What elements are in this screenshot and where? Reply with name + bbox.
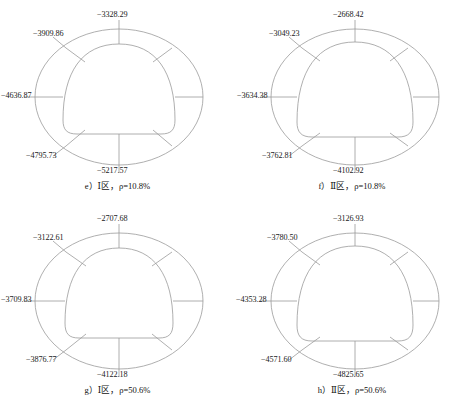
inner-tunnel-profile-h [297,246,413,341]
label-h-invert: −4825.65 [333,371,363,379]
divider-f-lower-right [390,133,408,146]
panel-h: −3126.93 −3780.50 −4353.28 −4571.60 −482… [235,205,469,410]
leader-f-upper-left [289,37,302,48]
divider-h-upper-right [390,252,408,265]
label-h-left: −4353.28 [236,296,266,304]
panel-e: −3328.29 −3909.86 −4636.87 −4795.73 −521… [0,0,235,205]
label-e-crown: −3328.29 [97,11,127,19]
label-f-invert: −4102.92 [333,167,363,175]
label-e-invert: −5217.57 [97,167,127,175]
divider-f-upper-right [390,48,408,61]
caption-g: g）Ⅰ区，ρ=50.6% [0,386,235,395]
inner-tunnel-profile-g [65,248,173,338]
leader-h-upper-left [289,241,302,252]
label-e-left: −4636.87 [1,92,31,100]
panel-g: −2707.68 −3122.61 −3709.83 −3876.77 −412… [0,205,235,410]
divider-g-upper-right [152,252,172,266]
caption-e: e）Ⅰ区，ρ=10.8% [0,182,235,191]
label-g-upper-left: −3122.61 [33,234,63,242]
divider-g-lower-right [152,334,172,350]
caption-f: f）Ⅱ区，ρ=10.8% [235,182,469,191]
divider-f-lower-left [302,133,320,146]
divider-h-lower-right [390,337,408,350]
label-h-crown: −3126.93 [333,215,363,223]
leader-g-upper-left [53,241,66,252]
label-f-upper-left: −3049.23 [269,30,299,38]
label-f-lower-left: −3762.81 [262,152,292,160]
label-e-lower-left: −4795.73 [26,152,56,160]
panel-f: −2668.42 −3049.23 −3634.38 −3762.81 −410… [235,0,469,205]
label-h-lower-left: −4571.60 [261,356,291,364]
divider-g-upper-left [66,252,86,266]
caption-h: h）Ⅱ区，ρ=50.6% [235,386,469,395]
label-h-upper-left: −3780.50 [267,234,297,242]
divider-f-upper-left [302,48,320,61]
label-g-left: −3709.83 [1,296,31,304]
divider-g-lower-left [66,334,86,350]
leader-e-upper-left [53,37,66,48]
inner-tunnel-profile-f [297,42,413,137]
label-g-invert: −4122.18 [97,371,127,379]
divider-e-upper-right [153,48,172,62]
label-g-lower-left: −3876.77 [26,356,56,364]
divider-e-upper-left [66,48,85,62]
divider-h-upper-left [302,252,320,265]
divider-h-lower-left [302,337,320,350]
label-g-crown: −2707.68 [97,215,127,223]
figure-grid: −3328.29 −3909.86 −4636.87 −4795.73 −521… [0,0,469,410]
label-e-upper-left: −3909.86 [33,30,63,38]
label-f-left: −3634.38 [237,92,267,100]
label-f-crown: −2668.42 [333,11,363,19]
inner-tunnel-profile-e [63,44,175,134]
